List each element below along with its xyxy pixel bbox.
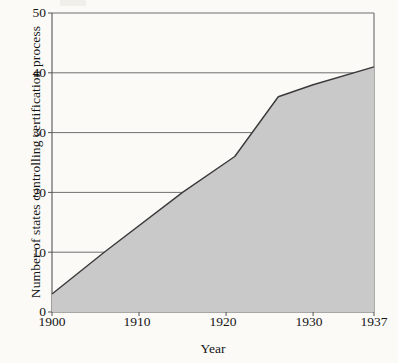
plot-area bbox=[0, 0, 398, 363]
chart-figure: Number of states controlling certificati… bbox=[0, 0, 398, 363]
area-series-fill bbox=[52, 67, 374, 312]
